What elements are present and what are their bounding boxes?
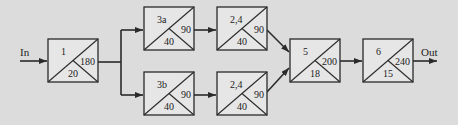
node-box-n1: 118020 <box>48 39 98 82</box>
node-bottom-value: 40 <box>164 101 174 112</box>
flow-diagram: In Out 1180203a90402,490403b90402,490405… <box>0 0 458 125</box>
node-right-value: 90 <box>181 24 191 35</box>
node-bottom-value: 20 <box>68 68 78 79</box>
node-right-value: 90 <box>254 89 264 100</box>
node-box-n24b: 2,49040 <box>217 72 267 115</box>
node-bottom-value: 40 <box>164 36 174 47</box>
node-box-n3b: 3b9040 <box>144 72 194 115</box>
output-label: Out <box>421 46 438 58</box>
input-label: In <box>20 46 30 58</box>
node-bottom-value: 18 <box>310 68 320 79</box>
node-right-value: 180 <box>80 56 95 67</box>
arrow-24b-to-5 <box>267 68 289 92</box>
node-name: 2,4 <box>230 14 243 25</box>
node-name: 5 <box>303 46 308 57</box>
node-name: 2,4 <box>230 79 243 90</box>
branch-connector <box>98 30 143 95</box>
node-bottom-value: 15 <box>383 68 393 79</box>
node-right-value: 90 <box>254 24 264 35</box>
node-name: 3a <box>157 14 167 25</box>
node-right-value: 90 <box>181 89 191 100</box>
node-box-n3a: 3a9040 <box>144 7 194 50</box>
node-name: 6 <box>376 46 381 57</box>
node-name: 3b <box>157 79 167 90</box>
node-right-value: 200 <box>322 56 337 67</box>
node-box-n24a: 2,49040 <box>217 7 267 50</box>
arrow-24a-to-5 <box>267 30 289 52</box>
node-bottom-value: 40 <box>237 36 247 47</box>
node-box-n6: 624015 <box>363 39 413 82</box>
node-bottom-value: 40 <box>237 101 247 112</box>
node-box-n5: 520018 <box>290 39 340 82</box>
node-name: 1 <box>61 46 66 57</box>
node-right-value: 240 <box>395 56 410 67</box>
